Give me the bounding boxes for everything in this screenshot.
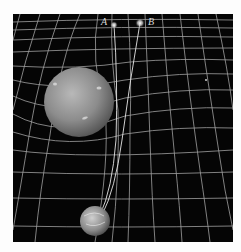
lensing-planet xyxy=(44,67,114,137)
observer-planet xyxy=(80,206,110,236)
star-image-b xyxy=(135,18,145,28)
label-image-b: B xyxy=(148,16,154,27)
lensing-diagram xyxy=(0,0,241,252)
star-image-a xyxy=(110,21,118,29)
faint-star xyxy=(205,79,207,81)
label-image-a: A xyxy=(101,16,107,27)
